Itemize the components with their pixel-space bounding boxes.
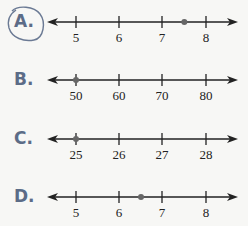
tick-label: 25 bbox=[70, 147, 83, 162]
tick-label: 8 bbox=[203, 30, 210, 45]
number-line: 25262728 bbox=[0, 117, 248, 167]
tick-label: 6 bbox=[116, 205, 123, 220]
plotted-point bbox=[73, 77, 79, 83]
tick-label: 5 bbox=[73, 205, 80, 220]
choice-row-d[interactable]: D. 5678 bbox=[0, 175, 248, 225]
tick-label: 60 bbox=[113, 88, 126, 103]
tick-label: 27 bbox=[156, 147, 170, 162]
tick-label: 6 bbox=[116, 30, 123, 45]
selection-circle-icon bbox=[4, 4, 48, 44]
plotted-point bbox=[73, 136, 79, 142]
tick-label: 28 bbox=[200, 147, 213, 162]
tick-label: 7 bbox=[159, 205, 166, 220]
tick-label: 50 bbox=[70, 88, 83, 103]
plotted-point bbox=[181, 19, 187, 25]
choice-row-a[interactable]: A. 5678 bbox=[0, 0, 248, 50]
number-line: 50607080 bbox=[0, 58, 248, 108]
tick-label: 8 bbox=[203, 205, 210, 220]
tick-label: 70 bbox=[156, 88, 169, 103]
tick-label: 5 bbox=[73, 30, 80, 45]
tick-label: 7 bbox=[159, 30, 166, 45]
plotted-point bbox=[138, 194, 144, 200]
tick-label: 26 bbox=[113, 147, 127, 162]
choice-row-b[interactable]: B. 50607080 bbox=[0, 58, 248, 108]
choice-row-c[interactable]: C. 25262728 bbox=[0, 117, 248, 167]
number-line: 5678 bbox=[0, 175, 248, 225]
tick-label: 80 bbox=[200, 88, 213, 103]
